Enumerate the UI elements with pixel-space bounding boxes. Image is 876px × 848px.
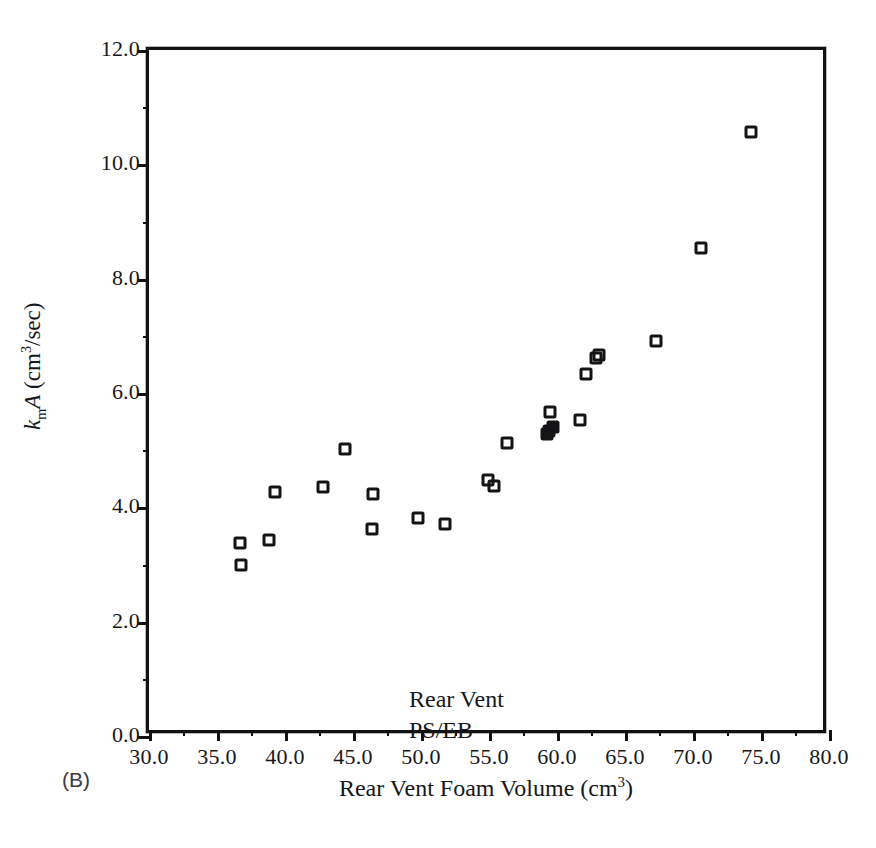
y-axis-title-unit-close: /sec) [20,303,45,346]
data-point [488,479,501,492]
x-tick-label-60.0: 60.0 [537,744,576,770]
x-tick-label-65.0: 65.0 [605,744,644,770]
y-axis-title-superscript: 3 [18,346,34,353]
y-minor-tick [143,450,149,452]
annotation-line-1: Rear Vent [409,684,504,715]
x-axis-title-superscript: 3 [618,774,625,790]
x-tick-label-75.0: 75.0 [741,744,780,770]
data-point [262,533,275,546]
y-axis-title-k: k [20,420,45,430]
x-tick-60.0 [557,730,560,741]
x-tick-45.0 [353,730,356,741]
plot-annotation: Rear Vent PS/EB [409,684,504,746]
x-tick-label-40.0: 40.0 [265,744,304,770]
y-tick-label-2.0: 2.0 [112,608,140,634]
plot-area: 0.02.04.06.08.010.012.0 30.035.040.045.0… [146,47,826,733]
data-point [338,443,351,456]
y-minor-tick [143,679,149,681]
data-point [234,536,247,549]
x-tick-30.0 [149,730,152,741]
x-tick-label-30.0: 30.0 [129,744,168,770]
data-point [317,480,330,493]
y-tick-label-12.0: 12.0 [101,36,140,62]
data-point [745,125,758,138]
x-tick-label-70.0: 70.0 [673,744,712,770]
x-tick-label-50.0: 50.0 [401,744,440,770]
data-point [366,523,379,536]
x-axis-title: Rear Vent Foam Volume (cm3) [146,775,826,802]
data-point [579,368,592,381]
data-point [593,348,606,361]
data-point [500,437,513,450]
scatter-plot-figure: kmA (cm3/sec) Rear Vent Foam Volume (cm3… [0,0,876,848]
data-point [544,406,557,419]
x-minor-tick [727,730,729,736]
x-minor-tick [319,730,321,736]
x-minor-tick [591,730,593,736]
x-minor-tick [387,730,389,736]
x-minor-tick [659,730,661,736]
data-point [574,413,587,426]
x-minor-tick [183,730,185,736]
x-tick-label-45.0: 45.0 [333,744,372,770]
data-point [367,488,380,501]
x-minor-tick [251,730,253,736]
x-tick-75.0 [761,730,764,741]
y-minor-tick [143,107,149,109]
y-tick-label-6.0: 6.0 [112,379,140,405]
y-axis-title-subscript: m [33,409,49,420]
x-tick-70.0 [693,730,696,741]
y-axis-title-unit-open: (cm [20,353,45,395]
data-point [235,558,248,571]
x-axis-title-tail: ) [625,775,633,801]
x-tick-35.0 [217,730,220,741]
x-tick-80.0 [829,730,832,741]
y-tick-label-4.0: 4.0 [112,494,140,520]
x-minor-tick [523,730,525,736]
x-tick-label-80.0: 80.0 [809,744,848,770]
data-point [269,485,282,498]
panel-label: (B) [62,768,90,792]
y-tick-label-8.0: 8.0 [112,265,140,291]
y-minor-tick [143,222,149,224]
data-point [695,242,708,255]
x-minor-tick [795,730,797,736]
y-axis-title: kmA (cm3/sec) [20,303,46,430]
data-point [541,428,554,441]
x-axis-title-main: Rear Vent Foam Volume (cm [339,775,618,801]
y-minor-tick [143,336,149,338]
y-tick-label-10.0: 10.0 [101,151,140,177]
data-point [650,334,663,347]
x-tick-label-35.0: 35.0 [197,744,236,770]
data-point [412,511,425,524]
annotation-line-2: PS/EB [409,715,504,746]
x-tick-40.0 [285,730,288,741]
y-minor-tick [143,565,149,567]
x-tick-label-55.0: 55.0 [469,744,508,770]
y-axis-title-A: A [20,395,45,409]
x-tick-65.0 [625,730,628,741]
data-point [439,518,452,531]
